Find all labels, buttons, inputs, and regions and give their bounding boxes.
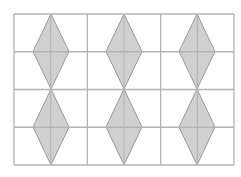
diamond-grid-diagram <box>0 0 241 177</box>
